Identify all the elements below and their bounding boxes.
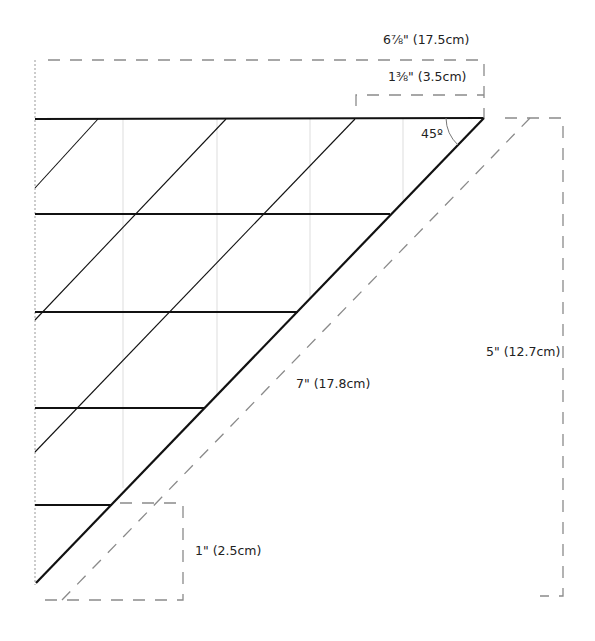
vertical-guide-lines: [123, 119, 403, 488]
dashed-guides: [40, 60, 563, 600]
horizontal-lines: [35, 118, 484, 505]
angle-label: 45º: [421, 128, 443, 141]
seam-allowance-label: 1" (2.5cm): [195, 545, 261, 558]
diagonal-grid-lines: [35, 119, 355, 452]
angle-arc: [446, 118, 458, 145]
hypotenuse-label: 7" (17.8cm): [296, 378, 370, 391]
tip-offset-label: 1⅜" (3.5cm): [388, 71, 466, 84]
hypotenuse-line: [36, 118, 484, 583]
height-label: 5" (12.7cm): [486, 346, 560, 359]
diagram-canvas: [0, 0, 595, 641]
total-width-label: 6⅞" (17.5cm): [383, 34, 469, 47]
